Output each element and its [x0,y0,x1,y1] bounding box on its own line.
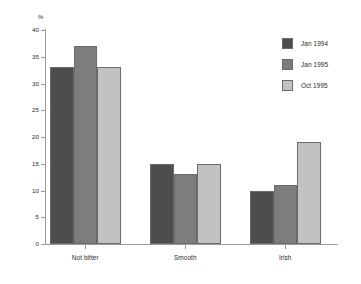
x-axis-category-label: Smooth [145,254,225,261]
y-axis-tick [41,30,45,31]
bar [197,164,221,244]
bar [50,67,74,244]
legend-swatch [282,59,293,70]
y-axis-tick [41,137,45,138]
y-axis-tick-label: 0 [35,241,39,247]
y-axis-tick-label: 40 [32,27,39,33]
y-axis-tick-label: 15 [32,161,39,167]
y-axis-tick-label: 30 [32,81,39,87]
legend-swatch [282,80,293,91]
y-axis-tick [41,191,45,192]
y-axis-tick-label: 20 [32,134,39,140]
legend-label: Jan 1994 [301,40,328,47]
x-axis-tick [285,245,286,249]
bar [150,164,174,244]
bar [297,142,321,244]
bar [174,174,198,244]
legend-label: Oct 1995 [301,82,328,89]
y-axis-tick [41,57,45,58]
y-axis-tick-label: 10 [32,188,39,194]
bar [274,185,298,244]
y-axis-tick [41,84,45,85]
y-axis-tick [41,110,45,111]
x-axis-category-label: Irish [245,254,325,261]
bar [74,46,98,244]
y-axis-unit-label: % [38,14,43,20]
y-axis-tick-label: 5 [35,214,39,220]
y-axis-tick-label: 25 [32,107,39,113]
x-axis-category-label: Not bitter [45,254,125,261]
bar [250,191,274,245]
y-axis-tick [41,217,45,218]
legend-swatch [282,38,293,49]
x-axis-line [42,244,338,245]
legend-label: Jan 1995 [301,61,328,68]
y-axis-tick [41,164,45,165]
x-axis-tick [185,245,186,249]
y-axis-tick [41,244,45,245]
x-axis-tick [85,245,86,249]
bar-chart: % 4035302520151050 Not bitterSmoothIrish… [0,0,361,284]
bar [97,67,121,244]
y-axis-tick-label: 35 [32,54,39,60]
